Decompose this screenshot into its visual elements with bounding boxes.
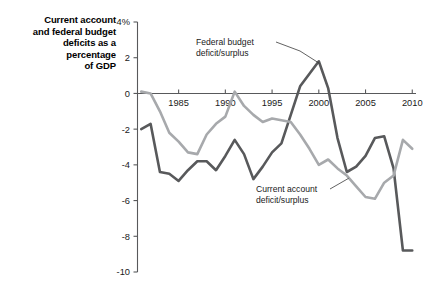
annotation-label: deficit/surplus bbox=[256, 195, 309, 205]
x-axis: 198519901995200020052010 bbox=[138, 89, 423, 108]
chart-title: Current account and federal budget defic… bbox=[8, 14, 116, 72]
x-axis-tick-label: 2010 bbox=[402, 98, 423, 108]
y-axis-tick-label: -10 bbox=[117, 267, 130, 277]
annotation-leader-line bbox=[330, 178, 349, 189]
chart-figure: Current account and federal budget defic… bbox=[0, 0, 435, 291]
chart-title-line-5: of GDP bbox=[8, 60, 116, 72]
y-axis-tick-label: 4% bbox=[117, 17, 130, 27]
y-axis-tick-label: -2 bbox=[122, 125, 130, 135]
x-axis-tick-label: 2005 bbox=[355, 98, 376, 108]
chart-title-line-3: deficits as a bbox=[8, 37, 116, 49]
x-axis-tick-label: 1995 bbox=[262, 98, 283, 108]
chart-title-line-4: percentage bbox=[8, 49, 116, 61]
data-series-group bbox=[141, 61, 412, 250]
y-axis-tick-label: 0 bbox=[125, 89, 130, 99]
x-axis-tick-label: 1985 bbox=[168, 98, 189, 108]
chart-title-line-1: Current account bbox=[8, 14, 116, 26]
annotation-label: Federal budget bbox=[196, 37, 254, 47]
chart-title-line-2: and federal budget bbox=[8, 26, 116, 38]
y-axis-tick-label: 2 bbox=[125, 53, 130, 63]
series-line-federal bbox=[141, 61, 412, 250]
y-axis-tick-label: -8 bbox=[122, 232, 130, 242]
annotation-label: Current account bbox=[256, 184, 318, 194]
y-axis-tick-label: -4 bbox=[122, 160, 130, 170]
y-axis-tick-label: -6 bbox=[122, 196, 130, 206]
x-axis-tick-label: 2000 bbox=[308, 98, 329, 108]
y-axis: 4%20-2-4-6-8-10 bbox=[117, 17, 138, 277]
annotation-leader-line bbox=[276, 42, 319, 63]
annotation-label: deficit/surplus bbox=[196, 48, 249, 58]
